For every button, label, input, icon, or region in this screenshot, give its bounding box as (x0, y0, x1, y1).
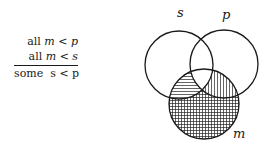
venn-diagram: s p m (0, 0, 271, 147)
label-m: m (233, 126, 245, 141)
label-s: s (177, 5, 184, 20)
label-p: p (222, 7, 231, 22)
